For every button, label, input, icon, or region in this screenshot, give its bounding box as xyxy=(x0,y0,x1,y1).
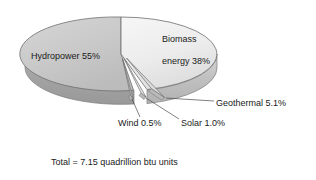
label-biomass-line2: energy 38% xyxy=(162,56,210,66)
label-biomass: Biomass energy 38% xyxy=(152,23,210,78)
chart-figure: Hydropower 55% Biomass energy 38% Geothe… xyxy=(0,0,316,180)
caption-total: Total = 7.15 quadrillion btu units xyxy=(51,157,178,169)
chart-caption: Total = 7.15 quadrillion btu units (= 7.… xyxy=(51,134,178,180)
label-biomass-line1: Biomass xyxy=(162,34,197,44)
leader-wind xyxy=(132,99,140,117)
label-solar: Solar 1.0% xyxy=(181,118,225,129)
label-geothermal: Geothermal 5.1% xyxy=(216,98,286,109)
leader-lines xyxy=(132,98,214,119)
label-hydropower: Hydropower 55% xyxy=(31,51,100,62)
label-wind: Wind 0.5% xyxy=(118,118,162,129)
leader-geothermal xyxy=(166,98,214,101)
